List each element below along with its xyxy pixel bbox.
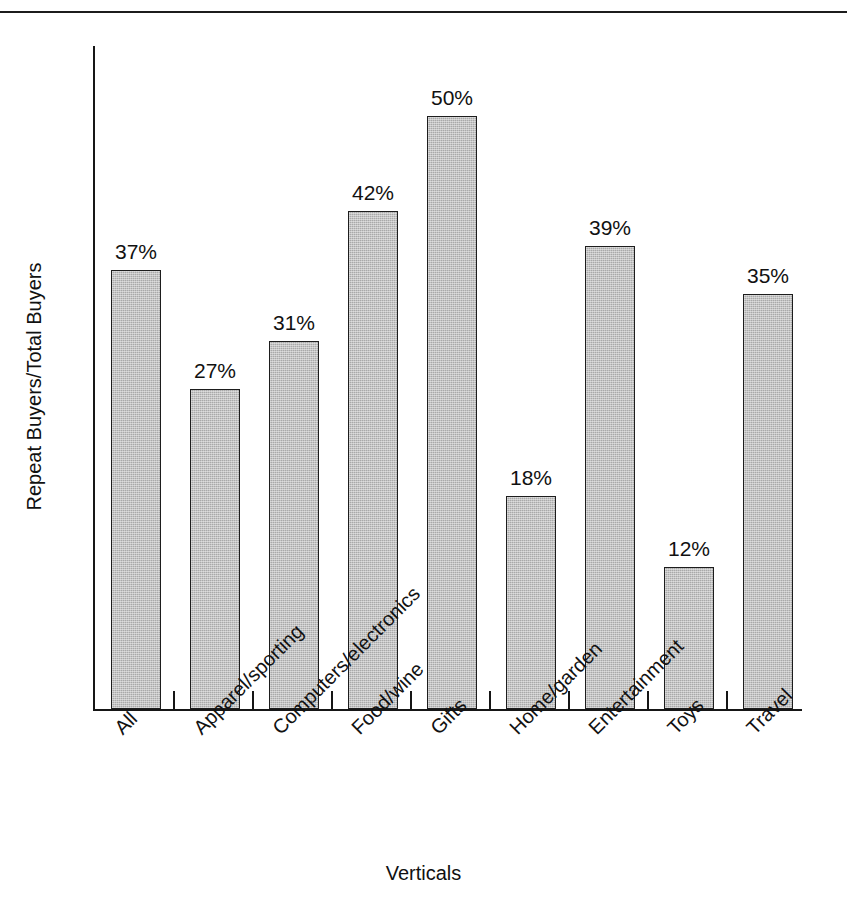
bar-value-label: 27% <box>185 359 245 383</box>
x-axis-tick <box>568 691 570 710</box>
bar-value-label: 18% <box>501 466 561 490</box>
bar-all[interactable] <box>111 270 161 709</box>
bar-home-garden[interactable] <box>506 496 556 709</box>
x-axis-tick <box>410 691 412 710</box>
bar-value-label: 37% <box>106 240 166 264</box>
bar-gifts[interactable] <box>427 116 477 709</box>
bar-value-label: 42% <box>343 181 403 205</box>
x-axis-tick <box>647 691 649 710</box>
x-axis-tick <box>726 691 728 710</box>
x-axis-tick <box>252 691 254 710</box>
x-axis-title: Verticals <box>0 862 847 885</box>
x-axis-tick <box>173 691 175 710</box>
bar-value-label: 39% <box>580 216 640 240</box>
bar-value-label: 12% <box>659 537 719 561</box>
y-axis-line <box>93 46 95 710</box>
chart-page: 37% 27% 31% 42% 50% 18% 39% 12% 35% All … <box>0 0 847 919</box>
bar-travel[interactable] <box>743 294 793 709</box>
bar-value-label: 31% <box>264 311 324 335</box>
bar-apparel-sporting[interactable] <box>190 389 240 709</box>
x-axis-tick <box>489 691 491 710</box>
bar-chart-plot: 37% 27% 31% 42% 50% 18% 39% 12% 35% All … <box>0 0 847 919</box>
x-axis-category-label-all: All <box>110 707 142 739</box>
y-axis-title: Repeat Buyers/Total Buyers <box>23 147 46 627</box>
bar-value-label: 50% <box>422 86 482 110</box>
x-axis-tick <box>331 691 333 710</box>
bar-value-label: 35% <box>738 264 798 288</box>
